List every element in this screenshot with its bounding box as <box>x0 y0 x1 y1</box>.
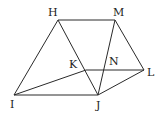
segment-hi <box>14 20 58 95</box>
point-label-n: N <box>109 55 119 68</box>
segments <box>14 20 144 95</box>
segment-hj <box>58 20 98 95</box>
point-label-l: L <box>147 66 155 79</box>
point-label-i: I <box>10 98 14 111</box>
diagram-svg: HMIJLKN <box>0 0 163 116</box>
segment-jl <box>98 70 144 95</box>
segment-ml <box>115 20 144 70</box>
point-label-m: M <box>113 6 124 19</box>
point-label-k: K <box>69 58 78 71</box>
geometry-diagram: HMIJLKN <box>0 0 163 116</box>
point-labels: HMIJLKN <box>10 6 155 112</box>
segment-ik <box>14 70 86 95</box>
point-label-j: J <box>95 99 100 112</box>
point-label-h: H <box>48 6 58 19</box>
